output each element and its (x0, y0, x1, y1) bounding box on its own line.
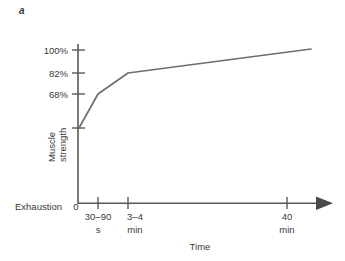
muscle-strength-recovery-chart: 100% 82% 68% Muscle strength Exhaustion … (0, 0, 345, 261)
x-axis-arrowhead (316, 197, 333, 210)
x-tick-label-40min-line2: min (279, 224, 294, 235)
x-tick-label-3-4min-line2: min (127, 224, 142, 235)
x-tick-label-40min-line1: 40 (282, 211, 293, 222)
x-tick-label-30-90s-line1: 30–90 (85, 211, 111, 222)
y-tick-label-68: 68% (49, 89, 69, 100)
data-line-muscle-strength (79, 49, 311, 128)
y-tick-label-82: 82% (49, 68, 69, 79)
x-axis-title: Time (190, 241, 211, 252)
y-tick-label-100: 100% (44, 45, 69, 56)
origin-label: 0 (73, 201, 78, 212)
exhaustion-label: Exhaustion (15, 201, 62, 212)
x-tick-label-30-90s-line2: s (96, 224, 101, 235)
y-axis-title-line2: strength (57, 128, 68, 162)
x-tick-label-3-4min-line1: 3–4 (127, 211, 143, 222)
y-axis-title: Muscle strength (46, 128, 68, 162)
y-axis-title-line1: Muscle (46, 132, 57, 162)
figure-panel: a 100% 82% 68% Muscle strength Exhaustio… (0, 0, 345, 261)
